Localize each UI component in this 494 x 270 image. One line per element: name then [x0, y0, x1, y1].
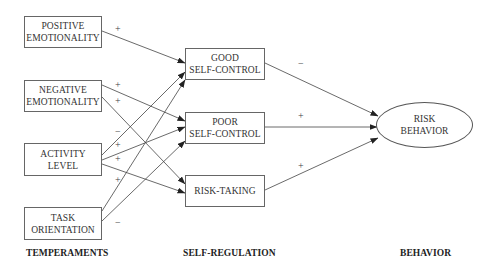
sign-activity-to-poor: + [115, 140, 121, 150]
node-label-line1: NEGATIVE [39, 85, 87, 95]
sign-activity-to-good: − [115, 127, 121, 137]
sign-activity-to-risk-taking: + [115, 154, 121, 164]
node-risk-behavior: RISKBEHAVIOR [376, 102, 473, 148]
column-label-behavior: BEHAVIOR [400, 248, 451, 258]
node-label-line2: EMOTIONALITY [26, 97, 100, 107]
node-label-line1: POSITIVE [41, 21, 84, 31]
column-label-temperaments: TEMPERAMENTS [26, 248, 108, 258]
node-label-line1: RISK [414, 114, 436, 124]
sign-good-to-risk-behavior: − [298, 59, 304, 69]
node-negative-emotionality: NEGATIVEEMOTIONALITY [24, 80, 102, 112]
sign-poor-to-risk-behavior: + [298, 111, 304, 121]
node-label-line1: POOR [212, 117, 238, 127]
edge-positive-to-good [102, 31, 185, 63]
node-label-line2: SELF-CONTROL [189, 129, 260, 139]
node-label-line2: LEVEL [48, 161, 79, 171]
node-label-line1: RISK-TAKING [194, 185, 256, 197]
sign-negative-to-risk-taking: + [115, 96, 121, 106]
node-label-line2: SELF-CONTROL [189, 65, 260, 75]
sign-task-to-poor: − [115, 218, 121, 228]
column-label-self-regulation: SELF-REGULATION [183, 248, 276, 258]
sign-positive-to-good: + [115, 24, 121, 34]
node-activity-level: ACTIVITYLEVEL [24, 143, 102, 176]
edge-risk-taking-to-risk-behavior [265, 138, 378, 190]
node-label-line2: ORIENTATION [31, 225, 95, 235]
node-label-line1: ACTIVITY [40, 149, 86, 159]
edge-good-to-risk-behavior [265, 63, 378, 116]
node-positive-emotionality: POSITIVEEMOTIONALITY [24, 16, 102, 48]
node-label-line2: BEHAVIOR [401, 126, 449, 136]
sign-task-to-good: + [115, 175, 121, 185]
node-label-line1: GOOD [211, 53, 239, 63]
node-good-self-control: GOODSELF-CONTROL [185, 48, 265, 80]
node-label-line2: EMOTIONALITY [26, 33, 100, 43]
node-risk-taking: RISK-TAKING [185, 175, 265, 207]
node-label-line1: TASK [51, 213, 75, 223]
node-task-orientation: TASKORIENTATION [24, 207, 102, 240]
node-poor-self-control: POORSELF-CONTROL [185, 112, 265, 144]
sign-risk-taking-to-risk-behavior: + [298, 161, 304, 171]
sign-negative-to-poor: + [115, 80, 121, 90]
